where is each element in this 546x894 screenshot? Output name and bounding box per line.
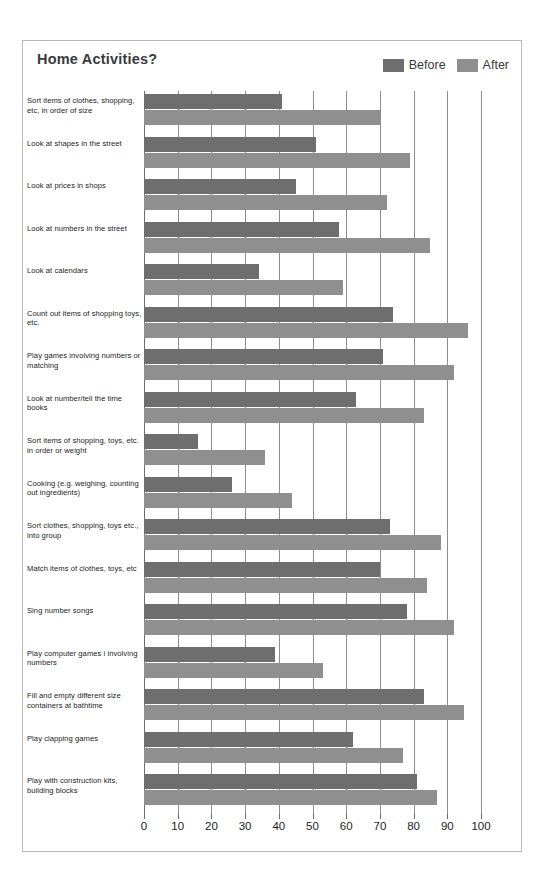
bar-row	[144, 732, 481, 764]
bar-after[interactable]	[144, 110, 380, 125]
category-label: Sort clothes, shopping, toys etc., into …	[27, 521, 143, 540]
x-tick-label-70: 70	[373, 820, 386, 832]
bar-before[interactable]	[144, 94, 282, 109]
bar-before[interactable]	[144, 477, 232, 492]
bar-after[interactable]	[144, 620, 454, 635]
plot-area	[144, 91, 481, 814]
category-label: Look at calendars	[27, 266, 143, 276]
bar-row	[144, 774, 481, 806]
bar-before[interactable]	[144, 604, 407, 619]
x-tick-mark-30	[245, 814, 246, 819]
x-tick-mark-60	[346, 814, 347, 819]
bar-row	[144, 477, 481, 509]
bar-before[interactable]	[144, 222, 339, 237]
bar-after[interactable]	[144, 280, 343, 295]
x-tick-mark-70	[380, 814, 381, 819]
bar-row	[144, 307, 481, 339]
bar-row	[144, 137, 481, 169]
bar-after[interactable]	[144, 535, 441, 550]
bar-before[interactable]	[144, 392, 356, 407]
category-label: Play games involving numbers or matching	[27, 351, 143, 370]
bar-before[interactable]	[144, 774, 417, 789]
bar-before[interactable]	[144, 137, 316, 152]
bar-after[interactable]	[144, 790, 437, 805]
bar-after[interactable]	[144, 663, 323, 678]
bar-before[interactable]	[144, 562, 380, 577]
category-label: Play clapping games	[27, 734, 143, 744]
bar-after[interactable]	[144, 450, 265, 465]
bar-before[interactable]	[144, 434, 198, 449]
x-axis: 0102030405060708090100	[144, 814, 481, 844]
bar-row	[144, 179, 481, 211]
x-tick-label-80: 80	[407, 820, 420, 832]
category-label-column: Sort items of clothes, shopping, etc, in…	[27, 91, 143, 814]
x-tick-label-90: 90	[441, 820, 454, 832]
bar-row	[144, 647, 481, 679]
bar-row	[144, 349, 481, 381]
bar-row	[144, 264, 481, 296]
bar-row	[144, 94, 481, 126]
bar-before[interactable]	[144, 732, 353, 747]
bar-before[interactable]	[144, 307, 393, 322]
category-label: Look at prices in shops	[27, 181, 143, 191]
x-tick-mark-80	[414, 814, 415, 819]
chart-card: Home Activities? Before After Sort items…	[22, 40, 522, 852]
x-tick-mark-20	[211, 814, 212, 819]
plot-wrapper: Sort items of clothes, shopping, etc, in…	[23, 41, 521, 851]
bar-after[interactable]	[144, 195, 387, 210]
x-tick-mark-100	[481, 814, 482, 819]
category-label: Sort items of clothes, shopping, etc, in…	[27, 96, 143, 115]
bar-row	[144, 222, 481, 254]
x-tick-label-10: 10	[171, 820, 184, 832]
bar-after[interactable]	[144, 705, 464, 720]
x-tick-label-50: 50	[306, 820, 319, 832]
bar-row	[144, 519, 481, 551]
bar-row	[144, 562, 481, 594]
bar-row	[144, 689, 481, 721]
category-label: Sing number songs	[27, 606, 143, 616]
x-tick-label-60: 60	[340, 820, 353, 832]
x-tick-label-100: 100	[471, 820, 490, 832]
category-label: Match items of clothes, toys, etc	[27, 564, 143, 574]
bar-row	[144, 604, 481, 636]
bar-after[interactable]	[144, 493, 292, 508]
bar-after[interactable]	[144, 153, 410, 168]
bar-before[interactable]	[144, 519, 390, 534]
bar-before[interactable]	[144, 179, 296, 194]
bar-after[interactable]	[144, 748, 403, 763]
bar-after[interactable]	[144, 365, 454, 380]
category-label: Look at numbers in the street	[27, 224, 143, 234]
x-tick-mark-40	[279, 814, 280, 819]
bar-after[interactable]	[144, 578, 427, 593]
bar-row	[144, 434, 481, 466]
bar-before[interactable]	[144, 349, 383, 364]
x-tick-mark-50	[313, 814, 314, 819]
x-tick-mark-10	[178, 814, 179, 819]
gridline-100	[481, 91, 482, 814]
bar-row	[144, 392, 481, 424]
x-tick-label-30: 30	[239, 820, 252, 832]
category-label: Count out items of shopping toys, etc.	[27, 309, 143, 328]
category-label: Play with construction kits, building bl…	[27, 776, 143, 795]
category-label: Look at number/tell the time books	[27, 394, 143, 413]
bar-before[interactable]	[144, 264, 259, 279]
bar-after[interactable]	[144, 323, 468, 338]
category-label: Look at shapes in the street	[27, 139, 143, 149]
category-label: Sort items of shopping, toys, etc. in or…	[27, 436, 143, 455]
bar-before[interactable]	[144, 689, 424, 704]
category-label: Cooking (e.g. weighing, counting out ing…	[27, 479, 143, 498]
x-tick-label-0: 0	[141, 820, 147, 832]
category-label: Fill and empty different size containers…	[27, 691, 143, 710]
x-tick-mark-0	[144, 814, 145, 819]
x-tick-label-40: 40	[272, 820, 285, 832]
chart-page: Home Activities? Before After Sort items…	[0, 0, 546, 894]
bar-after[interactable]	[144, 408, 424, 423]
bar-after[interactable]	[144, 238, 430, 253]
category-label: Play computer games i involving numbers	[27, 649, 143, 668]
x-tick-label-20: 20	[205, 820, 218, 832]
x-tick-mark-90	[447, 814, 448, 819]
bar-before[interactable]	[144, 647, 275, 662]
